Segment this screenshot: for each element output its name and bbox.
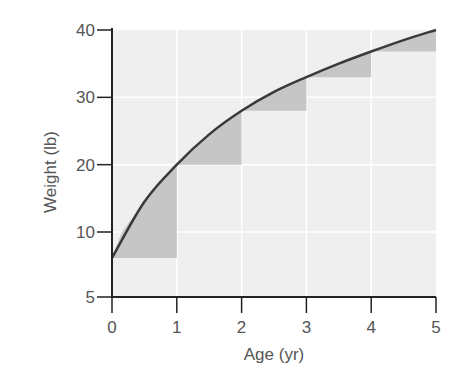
y-axis-ticks: 510203040 — [76, 21, 112, 307]
x-tick-label: 1 — [172, 318, 181, 337]
y-axis-label: Weight (lb) — [41, 131, 60, 213]
y-tick-label: 30 — [76, 88, 95, 107]
x-tick-label: 5 — [431, 318, 440, 337]
y-tick-label: 40 — [76, 21, 95, 40]
chart: 510203040 012345 Age (yr) Weight (lb) — [0, 0, 476, 387]
x-axis-ticks: 012345 — [107, 297, 440, 337]
x-tick-label: 2 — [237, 318, 246, 337]
x-tick-label: 0 — [107, 318, 116, 337]
y-tick-label: 20 — [76, 156, 95, 175]
y-tick-label: 10 — [76, 223, 95, 242]
x-tick-label: 4 — [366, 318, 375, 337]
x-axis-label: Age (yr) — [244, 345, 304, 364]
x-tick-label: 3 — [302, 318, 311, 337]
y-tick-label: 5 — [86, 288, 95, 307]
